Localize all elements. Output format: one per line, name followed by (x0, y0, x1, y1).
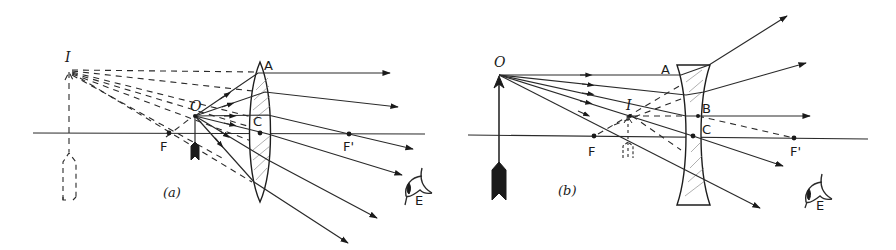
label-eye-a: E (415, 194, 423, 207)
image-point-b (628, 114, 632, 118)
optics-diagram (0, 0, 896, 250)
rays-a (195, 73, 413, 243)
label-focus-right-b: F' (790, 145, 801, 158)
panel-b (468, 16, 868, 208)
object-point-a (193, 114, 197, 118)
focus-left-a (167, 131, 172, 136)
label-image-b: I (626, 98, 632, 112)
label-eye-b: E (816, 199, 824, 212)
label-center-b: C (702, 123, 711, 136)
label-lens-top-a: A (264, 59, 273, 72)
caption-a: (a) (163, 186, 181, 199)
focus-left-b (592, 134, 597, 139)
rays-b (499, 16, 810, 208)
panel-a (33, 62, 425, 243)
center-b (691, 134, 696, 139)
label-focus-left-b: F (588, 145, 595, 158)
point-b (696, 114, 700, 118)
principal-axis-b (468, 135, 868, 139)
label-focus-left-a: F (160, 140, 167, 153)
label-object-a: O (190, 99, 201, 113)
object-a (191, 116, 199, 160)
caption-b: (b) (558, 184, 576, 197)
label-image-a: I (65, 50, 71, 64)
virtual-image-a (63, 72, 76, 200)
virtual-image-b (623, 117, 633, 158)
label-point-b: B (702, 102, 711, 115)
center-a (258, 131, 263, 136)
object-b (492, 76, 506, 200)
label-focus-right-a: F' (343, 140, 354, 153)
label-lens-top-b: A (661, 63, 670, 76)
label-object-b: O (494, 55, 505, 69)
focus-right-b (792, 136, 797, 141)
label-center-a: C (253, 115, 262, 128)
focus-right-a (347, 132, 352, 137)
